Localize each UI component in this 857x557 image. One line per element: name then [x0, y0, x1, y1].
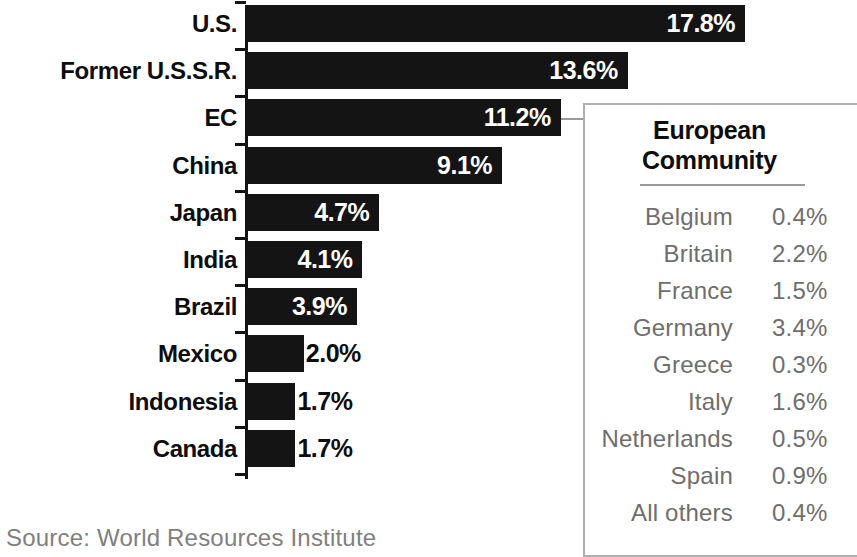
bar-rect	[248, 430, 295, 467]
bar-category-label: Former U.S.S.R.	[0, 52, 237, 89]
callout-title-underline	[640, 184, 805, 186]
bar-value-label: 1.7%	[297, 430, 352, 467]
callout-row: Belgium0.4%	[585, 198, 857, 235]
callout-row-name: All others	[585, 494, 733, 531]
y-axis-tick	[235, 473, 246, 476]
callout-row-value: 1.5%	[772, 272, 828, 309]
bar-rect	[248, 383, 295, 420]
bar-row: U.S.17.8%	[0, 5, 857, 42]
callout-row-value: 0.4%	[772, 494, 828, 531]
callout-row-name: Britain	[585, 235, 733, 272]
bar-value-label: 1.7%	[297, 383, 352, 420]
callout-row-name: Netherlands	[585, 420, 733, 457]
callout-row-name: France	[585, 272, 733, 309]
callout-row-name: Italy	[585, 383, 733, 420]
callout-row-value: 1.6%	[772, 383, 828, 420]
bar-category-label: Japan	[0, 194, 237, 231]
bar-value-label: 2.0%	[306, 335, 361, 372]
y-axis-tick	[235, 1, 246, 4]
callout-row: All others0.4%	[585, 494, 857, 531]
callout-row-value: 0.3%	[772, 346, 828, 383]
callout-row-value: 0.5%	[772, 420, 828, 457]
bar-value-label: 13.6%	[543, 52, 618, 89]
source-note: Source: World Resources Institute	[6, 524, 376, 552]
callout-row-value: 0.9%	[772, 457, 828, 494]
bar-category-label: Mexico	[0, 335, 237, 372]
bar-category-label: Canada	[0, 430, 237, 467]
callout-row: Netherlands0.5%	[585, 420, 857, 457]
y-axis-tick	[235, 284, 246, 287]
bar-category-label: China	[0, 147, 237, 184]
y-axis-tick	[235, 379, 246, 382]
y-axis-tick	[235, 95, 246, 98]
bar-value-label: 4.1%	[277, 241, 352, 278]
bar-value-label: 9.1%	[417, 147, 492, 184]
bar-value-label: 17.8%	[660, 5, 735, 42]
y-axis-tick	[235, 237, 246, 240]
callout-row-name: Belgium	[585, 198, 733, 235]
callout-row-value: 3.4%	[772, 309, 828, 346]
bar-value-label: 11.2%	[476, 99, 551, 136]
bar-value-label: 3.9%	[272, 288, 347, 325]
bar-row: Former U.S.S.R.13.6%	[0, 52, 857, 89]
callout-row-value: 2.2%	[772, 235, 828, 272]
callout-title: European Community	[585, 115, 834, 175]
y-axis-tick	[235, 48, 246, 51]
callout-row: Germany3.4%	[585, 309, 857, 346]
callout-row-name: Greece	[585, 346, 733, 383]
callout-rows-container: Belgium0.4%Britain2.2%France1.5%Germany3…	[585, 198, 857, 531]
bar-category-label: Indonesia	[0, 383, 237, 420]
y-axis-tick	[235, 143, 246, 146]
callout-row-name: Spain	[585, 457, 733, 494]
callout-row: Italy1.6%	[585, 383, 857, 420]
y-axis-tick	[235, 426, 246, 429]
y-axis-tick	[235, 331, 246, 334]
y-axis-tick	[235, 190, 246, 193]
bar-category-label: U.S.	[0, 5, 237, 42]
callout-title-line-1: European	[585, 115, 834, 145]
callout-title-line-2: Community	[585, 145, 834, 175]
callout-row: France1.5%	[585, 272, 857, 309]
european-community-callout-panel: European Community Belgium0.4%Britain2.2…	[583, 103, 857, 557]
emissions-bar-chart: U.S.17.8%Former U.S.S.R.13.6%EC11.2%Chin…	[0, 0, 857, 557]
bar-category-label: India	[0, 241, 237, 278]
callout-row: Britain2.2%	[585, 235, 857, 272]
callout-connector-line	[561, 118, 583, 120]
bar-category-label: Brazil	[0, 288, 237, 325]
callout-row: Greece0.3%	[585, 346, 857, 383]
callout-row: Spain0.9%	[585, 457, 857, 494]
callout-row-value: 0.4%	[772, 198, 828, 235]
bar-rect	[248, 335, 304, 372]
callout-row-name: Germany	[585, 309, 733, 346]
bar-category-label: EC	[0, 99, 237, 136]
bar-value-label: 4.7%	[294, 194, 369, 231]
